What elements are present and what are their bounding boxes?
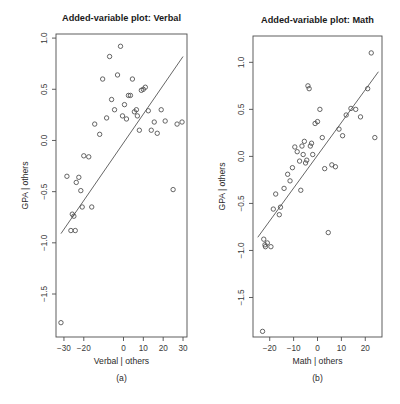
data-point — [290, 165, 294, 169]
chart-title: Added-variable plot: Math — [261, 15, 374, 25]
data-point — [309, 141, 313, 145]
data-point — [305, 158, 309, 162]
x-tick-label: −10 — [287, 344, 301, 353]
data-point — [373, 135, 377, 139]
data-point — [318, 107, 322, 111]
data-point — [295, 150, 299, 154]
panel-caption: (b) — [312, 373, 323, 383]
data-point — [271, 207, 275, 211]
regression-line — [258, 72, 379, 238]
scatter-points — [260, 51, 377, 334]
data-point — [285, 172, 289, 176]
data-point — [303, 161, 307, 165]
data-point — [297, 159, 301, 163]
data-point — [333, 165, 337, 169]
data-point — [320, 135, 324, 139]
data-point — [262, 237, 266, 241]
y-tick-label: −1.0 — [237, 242, 246, 259]
plot-box — [253, 36, 382, 337]
data-point — [282, 186, 286, 190]
page-footer-artifact — [0, 392, 400, 402]
x-tick-label: 10 — [337, 344, 347, 353]
data-point — [293, 145, 297, 149]
y-tick-label: −0.5 — [237, 195, 246, 212]
y-tick-label: −1.5 — [237, 289, 246, 306]
data-point — [273, 192, 277, 196]
data-point — [326, 230, 330, 234]
data-point — [307, 86, 311, 90]
data-point — [288, 179, 292, 183]
y-tick-label: 0.5 — [237, 103, 246, 115]
chart-panel-math: Added-variable plot: Math−1.5−1.0−0.50.0… — [0, 0, 400, 404]
data-point — [340, 134, 344, 138]
data-point — [299, 188, 303, 192]
data-point — [300, 144, 304, 148]
y-tick-label: 1.0 — [237, 56, 246, 68]
data-point — [301, 152, 305, 156]
data-point — [306, 84, 310, 88]
data-point — [269, 245, 273, 249]
data-point — [369, 51, 373, 55]
data-point — [337, 127, 341, 131]
data-point — [322, 166, 326, 170]
data-point — [308, 144, 312, 148]
data-point — [354, 107, 358, 111]
x-tick-label: 0 — [315, 344, 320, 353]
figure-two-added-variable-plots: Added-variable plot: Verbal−1.5−1.0−0.50… — [0, 0, 400, 404]
x-axis-label: Math | others — [293, 356, 343, 366]
y-axis-label: GPA | others — [217, 163, 227, 211]
data-point — [311, 152, 315, 156]
x-tick-label: −20 — [263, 344, 277, 353]
data-point — [277, 213, 281, 217]
data-point — [302, 139, 306, 143]
data-point — [260, 329, 264, 333]
y-tick-label: 0.0 — [237, 150, 246, 162]
data-point — [358, 115, 362, 119]
x-tick-label: 20 — [361, 344, 371, 353]
